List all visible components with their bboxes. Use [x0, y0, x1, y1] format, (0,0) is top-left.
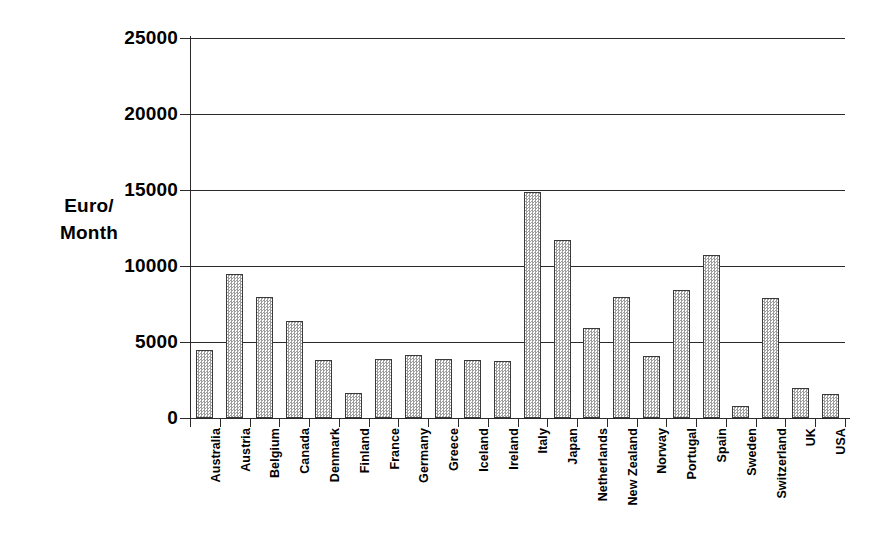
bar [226, 274, 243, 418]
x-axis-tick-mark [815, 418, 816, 427]
x-axis-tick-label: Ireland [508, 428, 521, 470]
bar [732, 406, 749, 418]
x-axis-tick-label: Switzerland [776, 428, 789, 499]
x-axis-tick-mark [547, 418, 548, 427]
x-axis-tick-label-text: Canada [299, 428, 312, 474]
x-axis-tick-label: Netherlands [597, 428, 610, 501]
x-axis-tick-label-text: Denmark [329, 428, 342, 482]
x-axis-tick-label-text: Japan [567, 428, 580, 465]
y-axis-tick-label: 5000 [38, 331, 178, 353]
bar [822, 394, 839, 418]
y-axis-tick-mark [180, 190, 191, 191]
x-axis-tick-label-text: Finland [359, 428, 372, 473]
x-axis-tick-mark [398, 418, 399, 427]
x-axis-tick-mark [279, 418, 280, 427]
x-axis-tick-mark [428, 418, 429, 427]
x-axis-tick-label-text: Netherlands [597, 428, 610, 501]
x-axis-tick-label-text: Spain [716, 428, 729, 463]
x-axis-tick-mark [369, 418, 370, 427]
y-axis-tick-label: 0 [38, 407, 178, 429]
x-axis-tick-mark [726, 418, 727, 427]
x-axis-tick-label: Australia [210, 428, 223, 482]
x-axis-tick-label-text: Belgium [269, 428, 282, 478]
x-axis-tick-mark [637, 418, 638, 427]
x-axis-tick-label-text: France [389, 428, 402, 470]
y-axis-tick-labels: 0500010000150002000025000 [38, 0, 178, 534]
y-axis-tick-label: 25000 [38, 27, 178, 49]
x-axis-tick-label: Denmark [329, 428, 342, 482]
x-axis-tick-label: Germany [418, 428, 431, 483]
bar [762, 298, 779, 418]
x-axis-tick-label-text: Australia [210, 428, 223, 482]
x-axis-tick-mark [339, 418, 340, 427]
x-axis-tick-label-text: Norway [656, 428, 669, 474]
bars-layer [190, 38, 845, 418]
x-axis-tick-label: France [389, 428, 402, 470]
bar [643, 356, 660, 418]
bar [613, 297, 630, 418]
x-axis-tick-mark [785, 418, 786, 427]
x-axis-tick-mark [696, 418, 697, 427]
y-axis-tick-mark [180, 266, 191, 267]
x-axis-tick-mark [577, 418, 578, 427]
x-axis-tick-label-text: Ireland [508, 428, 521, 470]
bar [196, 350, 213, 418]
x-axis-tick-label-text: Greece [448, 428, 461, 471]
bar-chart: Euro/ Month 0500010000150002000025000 Au… [0, 0, 875, 534]
x-axis-tick-label-text: Switzerland [776, 428, 789, 499]
bar [524, 192, 541, 418]
x-axis-tick-mark [518, 418, 519, 427]
x-axis-tick-label-text: New Zealand [627, 428, 640, 506]
y-axis-tick-mark [180, 342, 191, 343]
bar [554, 240, 571, 418]
bar [375, 359, 392, 418]
x-axis-tick-label: Greece [448, 428, 461, 471]
x-axis-tick-mark [756, 418, 757, 427]
bar [792, 388, 809, 418]
x-axis-tick-mark [250, 418, 251, 427]
bar [494, 361, 511, 418]
x-axis-tick-label: Italy [537, 428, 550, 454]
bar [673, 290, 690, 418]
y-axis-tick-label: 15000 [38, 179, 178, 201]
x-axis-tick-mark [309, 418, 310, 427]
bar [464, 360, 481, 418]
x-axis-tick-label-text: Portugal [686, 428, 699, 480]
x-axis-tick-label: Iceland [478, 428, 491, 472]
x-axis-ticks [190, 418, 845, 428]
x-axis-tick-label: Canada [299, 428, 312, 474]
bar [405, 355, 422, 418]
bar [435, 359, 452, 418]
bar [256, 297, 273, 418]
x-axis-tick-mark [845, 418, 846, 427]
bar [315, 360, 332, 418]
bar [286, 321, 303, 418]
x-axis-tick-label: USA [835, 428, 848, 455]
y-axis-tick-label: 20000 [38, 103, 178, 125]
x-axis-tick-label: Norway [656, 428, 669, 474]
x-axis-tick-mark [190, 418, 191, 427]
x-axis-tick-mark [220, 418, 221, 427]
x-axis-tick-mark [607, 418, 608, 427]
bar [583, 328, 600, 418]
x-axis-tick-mark [488, 418, 489, 427]
x-axis-tick-label-text: Sweden [746, 428, 759, 476]
x-axis-tick-label-text: USA [835, 428, 848, 455]
x-axis-tick-label-text: Germany [418, 428, 431, 483]
x-axis-tick-label-text: UK [805, 428, 818, 446]
x-axis-tick-mark [666, 418, 667, 427]
x-axis-tick-label-text: Austria [240, 428, 253, 472]
x-axis-tick-label: UK [805, 428, 818, 446]
x-axis-tick-label: Finland [359, 428, 372, 473]
x-axis-tick-mark [458, 418, 459, 427]
bar [703, 255, 720, 418]
y-axis-tick-label: 10000 [38, 255, 178, 277]
x-axis-tick-label-text: Italy [537, 428, 550, 454]
x-axis-tick-label: Belgium [269, 428, 282, 478]
bar [345, 393, 362, 418]
x-axis-tick-label-text: Iceland [478, 428, 491, 472]
x-axis-tick-labels: AustraliaAustriaBelgiumCanadaDenmarkFinl… [190, 428, 845, 534]
y-axis-tick-mark [180, 418, 191, 419]
x-axis-tick-label: Austria [240, 428, 253, 472]
y-axis-tick-mark [180, 38, 191, 39]
